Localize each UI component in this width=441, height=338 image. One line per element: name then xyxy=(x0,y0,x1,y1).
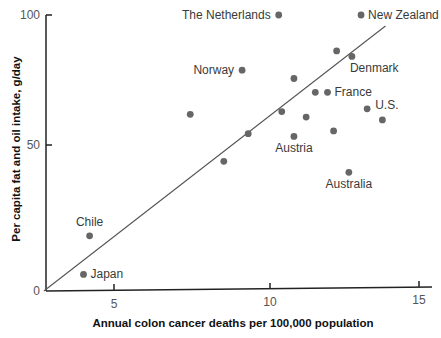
data-point xyxy=(245,130,252,137)
data-point xyxy=(80,271,87,278)
y-axis: 100 50 0 xyxy=(20,8,52,298)
point-label: The Netherlands xyxy=(182,8,271,22)
x-tick-label-5: 5 xyxy=(111,297,118,311)
data-point xyxy=(187,111,194,118)
origin-label: 0 xyxy=(33,284,40,298)
point-label: Denmark xyxy=(350,61,400,75)
y-tick-label-100: 100 xyxy=(20,8,40,22)
x-axis-title: Annual colon cancer deaths per 100,000 p… xyxy=(92,317,373,329)
data-point xyxy=(364,105,371,112)
point-label: Chile xyxy=(76,215,104,229)
point-label: Japan xyxy=(91,267,124,281)
data-point xyxy=(275,12,282,19)
y-tick-label-50: 50 xyxy=(27,138,41,152)
data-point xyxy=(312,89,319,96)
point-label: France xyxy=(335,85,373,99)
x-axis: 5 10 15 xyxy=(46,281,432,311)
data-point xyxy=(278,108,285,115)
data-point xyxy=(333,47,340,54)
data-point xyxy=(86,232,93,239)
y-axis-title: Per capita fat and oil intake, g/day xyxy=(10,56,22,242)
data-point xyxy=(358,12,365,19)
data-point xyxy=(291,133,298,140)
data-point xyxy=(324,89,331,96)
data-point xyxy=(349,53,356,60)
scatter-chart: 100 50 0 5 10 15 Annual colon cancer dea… xyxy=(0,0,441,338)
data-point xyxy=(330,128,337,135)
data-point xyxy=(220,158,227,165)
data-point xyxy=(345,169,352,176)
point-label: Norway xyxy=(193,63,234,77)
x-tick-label-10: 10 xyxy=(263,295,277,309)
data-points: The NetherlandsNew ZealandDenmarkNorwayF… xyxy=(76,8,439,281)
point-label: New Zealand xyxy=(368,8,439,22)
point-label: U.S. xyxy=(375,98,398,112)
data-point xyxy=(303,114,310,121)
data-point xyxy=(291,75,298,82)
point-label: Australia xyxy=(326,177,373,191)
data-point xyxy=(379,116,386,123)
data-point xyxy=(239,67,246,74)
point-label: Austria xyxy=(275,141,313,155)
x-tick-label-15: 15 xyxy=(412,293,426,307)
